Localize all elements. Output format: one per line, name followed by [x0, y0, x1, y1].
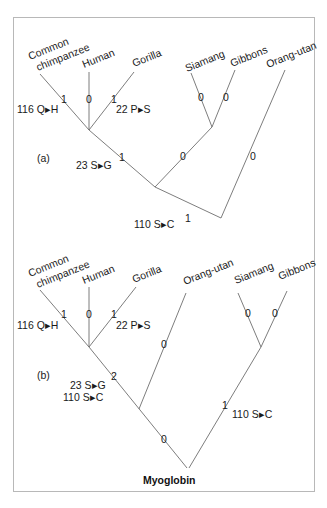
panel-label-b: (b)	[37, 369, 50, 381]
count-b-african-ape-stem: 2	[111, 370, 117, 382]
panel-a-substitutions: 116 Q▸H 22 P▸S 23 S▸G 110 S▸C	[17, 103, 175, 230]
panel-a-tree	[40, 70, 285, 218]
count-a-siamang: 0	[198, 91, 204, 103]
count-b-gibbons: 0	[272, 307, 278, 319]
count-a-great-ape-stem: 1	[185, 212, 191, 224]
subst-b-gorilla: 22 P▸S	[116, 319, 151, 331]
subst-b-african-ape-stem-2: 110 S▸C	[63, 391, 104, 403]
subst-a-african-ape-stem: 23 S▸G	[76, 159, 112, 171]
taxon-label-gorilla: Gorilla	[130, 46, 163, 69]
count-b-orang: 0	[161, 338, 167, 350]
branch-b-siamang	[238, 293, 261, 347]
figure-caption: Myoglobin	[143, 474, 196, 486]
subst-a-chimp: 116 Q▸H	[17, 103, 58, 115]
taxon-label-siamang: Siamang	[183, 47, 226, 74]
phylogeny-figure: Common chimpanzee Human Gorilla Siamang …	[0, 0, 327, 508]
taxon-label-orang: Orang-utan	[264, 39, 318, 70]
count-b-great-ape-stem: 0	[161, 433, 167, 445]
panel-b-substitutions: 116 Q▸H 22 P▸S 23 S▸G 110 S▸C 110 S▸C	[17, 319, 273, 420]
branch-a-orang	[221, 70, 285, 218]
count-b-hylobatid-stem: 1	[222, 399, 228, 411]
subst-b-chimp: 116 Q▸H	[17, 319, 58, 331]
count-a-gibbons: 0	[223, 91, 229, 103]
count-a-orang: 0	[250, 150, 256, 162]
taxon-label-siamang: Siamang	[232, 259, 275, 286]
count-a-human: 0	[86, 93, 92, 105]
count-b-chimp: 1	[61, 308, 67, 320]
subst-a-gorilla: 22 P▸S	[116, 103, 151, 115]
panel-label-a: (a)	[37, 152, 50, 164]
subst-b-hylobatid-stem: 110 S▸C	[232, 408, 273, 420]
count-b-human: 0	[86, 308, 92, 320]
branch-b-gibbons	[261, 291, 287, 347]
panel-a-taxa: Common chimpanzee Human Gorilla Siamang …	[26, 35, 318, 74]
count-a-african-ape-stem: 1	[119, 151, 125, 163]
taxon-label-gibbons: Gibbons	[276, 256, 317, 282]
branch-b-orang	[139, 293, 186, 409]
count-a-chimp: 1	[61, 93, 67, 105]
subst-b-african-ape-stem-1: 23 S▸G	[70, 379, 106, 391]
taxon-label-gibbons: Gibbons	[228, 43, 269, 69]
taxon-label-orang: Orang-utan	[181, 256, 235, 287]
panel-b-taxa: Common chimpanzee Human Gorilla Orang-ut…	[26, 252, 317, 290]
count-b-siamang: 0	[245, 307, 251, 319]
taxon-label-gorilla: Gorilla	[130, 262, 163, 285]
subst-a-great-ape-stem: 110 S▸C	[134, 218, 175, 230]
count-a-hylobatid-stem: 0	[180, 150, 186, 162]
panel-b-counts: 1 0 1 0 0 0 2 0 1	[61, 307, 278, 445]
branch-b-african-ape-stem	[89, 347, 187, 468]
